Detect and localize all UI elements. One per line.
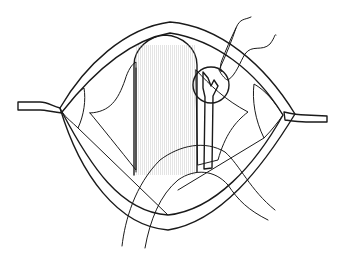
central-cylinder — [134, 35, 197, 175]
left-cleared-area — [90, 62, 136, 170]
branching-vessel — [203, 72, 218, 169]
right-dark-tissue — [253, 84, 283, 138]
surgical-illustration — [0, 0, 345, 263]
suture-threads-top — [219, 17, 276, 80]
left-retractor — [18, 102, 62, 113]
